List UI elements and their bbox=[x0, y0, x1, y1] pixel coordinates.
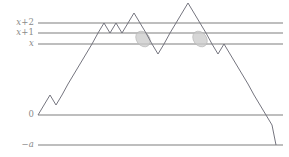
lattice-path-figure bbox=[0, 0, 289, 157]
label-x: x bbox=[29, 39, 34, 48]
axis-label-text: x bbox=[29, 38, 34, 48]
axis-label-text: a bbox=[29, 139, 34, 149]
label-minus-a: −a bbox=[22, 140, 34, 149]
crossing-highlights-group bbox=[133, 28, 211, 49]
figure-root: x+2x+1x0−a bbox=[0, 0, 289, 157]
axis-label-offset: +2 bbox=[21, 17, 34, 27]
label-zero: 0 bbox=[28, 110, 34, 119]
crossing-1 bbox=[133, 28, 154, 49]
label-x-plus-1: x+1 bbox=[16, 28, 34, 37]
level-lines-group bbox=[38, 23, 283, 145]
axis-label-sign: − bbox=[22, 139, 29, 149]
axis-label-text: 0 bbox=[28, 109, 34, 119]
axis-label-offset: +1 bbox=[21, 27, 34, 37]
label-x-plus-2: x+2 bbox=[16, 18, 34, 27]
walk-path-group bbox=[38, 3, 276, 145]
crossing-2 bbox=[190, 28, 211, 49]
walk-path-line bbox=[38, 3, 276, 145]
